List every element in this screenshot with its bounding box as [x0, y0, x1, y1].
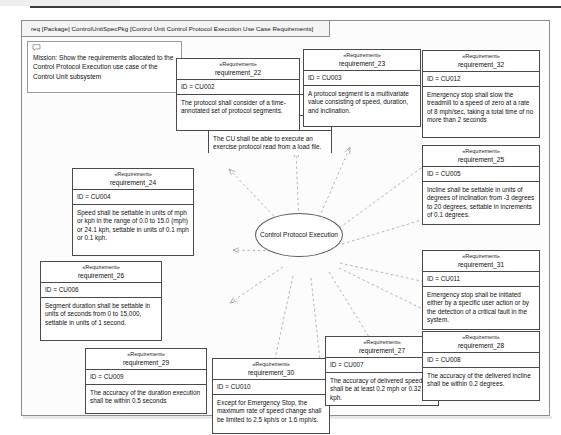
requirement-name: requirement_23 — [307, 60, 417, 68]
diagram-frame-header: req [Package] ControlUnitSpecPkg [Contro… — [22, 21, 330, 37]
requirement-name: requirement_22 — [180, 69, 296, 77]
use-case-label: Control Protocol Execution — [260, 231, 338, 240]
requirement-id: ID = CU012 — [423, 72, 539, 88]
requirement-box-requirement_31[interactable]: «Requirement» requirement_31 ID = CU011 … — [422, 250, 540, 330]
use-case-control-protocol-execution[interactable]: Control Protocol Execution — [255, 213, 343, 257]
diagram-frame: req [Package] ControlUnitSpecPkg [Contro… — [21, 20, 550, 416]
requirement-text: Except for Emergency Stop, the maximum r… — [213, 395, 329, 427]
mission-note-text: Mission: Show the requirements allocated… — [33, 54, 173, 80]
requirement-header: «Requirement» requirement_32 — [423, 51, 539, 72]
requirement-stereotype: «Requirement» — [216, 361, 326, 369]
requirement-id: ID = CU009 — [86, 370, 206, 386]
requirement-id: ID = CU005 — [423, 167, 539, 183]
requirement-header: «Requirement» requirement_26 — [41, 262, 161, 283]
requirement-stereotype: «Requirement» — [426, 53, 536, 61]
requirement-header: «Requirement» requirement_29 — [86, 349, 206, 370]
requirement-text: The protocol shall consider of a time-an… — [177, 95, 299, 119]
requirement-header: «Requirement» requirement_23 — [304, 50, 420, 71]
requirement-id: ID = CU004 — [73, 190, 193, 206]
requirement-id: ID = CU002 — [177, 80, 299, 96]
requirement-id: ID = CU006 — [41, 283, 161, 299]
requirement-name: requirement_32 — [426, 61, 536, 69]
requirement-id: ID = CU011 — [423, 272, 539, 288]
requirement-name: requirement_28 — [426, 342, 536, 350]
requirement-stereotype: «Requirement» — [426, 334, 536, 342]
requirement-name: requirement_30 — [216, 369, 326, 377]
requirement-box-requirement_32[interactable]: «Requirement» requirement_32 ID = CU012 … — [422, 50, 540, 138]
requirement-text: The CU shall be able to execute an exerc… — [209, 131, 331, 155]
requirement-name: requirement_26 — [44, 272, 158, 280]
requirement-header: «Requirement» requirement_25 — [423, 146, 539, 167]
requirement-header: «Requirement» requirement_31 — [423, 251, 539, 272]
requirement-stereotype: «Requirement» — [89, 351, 203, 359]
requirement-stereotype: «Requirement» — [76, 171, 190, 179]
requirement-box-requirement_23[interactable]: «Requirement» requirement_23 ID = CU003 … — [303, 49, 421, 127]
requirement-text: Emergency stop shall be initiated either… — [423, 287, 539, 328]
requirement-stereotype: «Requirement» — [426, 253, 536, 261]
requirement-box-requirement_24[interactable]: «Requirement» requirement_24 ID = CU004 … — [72, 168, 194, 256]
requirement-header: «Requirement» requirement_22 — [177, 59, 299, 80]
requirement-name: requirement_25 — [426, 156, 536, 164]
requirement-id: ID = CU008 — [423, 353, 539, 369]
requirement-box-requirement_25[interactable]: «Requirement» requirement_25 ID = CU005 … — [422, 145, 540, 225]
requirement-stereotype: «Requirement» — [329, 339, 435, 347]
requirement-box-requirement_28[interactable]: «Requirement» requirement_28 ID = CU008 … — [422, 331, 540, 401]
requirement-id: ID = CU010 — [213, 380, 329, 396]
requirement-box-requirement_29[interactable]: «Requirement» requirement_29 ID = CU009 … — [85, 348, 207, 414]
requirement-stereotype: «Requirement» — [426, 148, 536, 156]
requirement-text: The accuracy of the delivered incline sh… — [423, 368, 539, 392]
requirement-text: Emergency stop shall slow the treadmill … — [423, 87, 539, 128]
requirement-name: requirement_24 — [76, 179, 190, 187]
requirement-text: Incline shall be settable in units of de… — [423, 182, 539, 223]
requirement-header: «Requirement» requirement_24 — [73, 169, 193, 190]
requirement-header: «Requirement» requirement_30 — [213, 359, 329, 380]
mission-note: Mission: Show the requirements allocated… — [27, 41, 182, 93]
requirement-id: ID = CU003 — [304, 71, 420, 87]
requirement-name: requirement_27 — [329, 347, 435, 355]
top-divider-rule — [30, 6, 561, 8]
requirement-box-requirement_22[interactable]: «Requirement» requirement_22 ID = CU002 … — [176, 58, 300, 131]
requirement-stereotype: «Requirement» — [44, 264, 158, 272]
requirement-text: Segment duration shall be settable in un… — [41, 298, 161, 330]
requirement-stereotype: «Requirement» — [307, 52, 417, 60]
requirement-name: requirement_29 — [89, 359, 203, 367]
requirement-text: The accuracy of the duration execution s… — [86, 385, 206, 409]
comment-icon — [32, 44, 41, 51]
requirement-name: requirement_31 — [426, 261, 536, 269]
requirement-text: A protocol segment is a multivariate val… — [304, 86, 420, 118]
requirement-box-requirement_26[interactable]: «Requirement» requirement_26 ID = CU006 … — [40, 261, 162, 341]
requirement-stereotype: «Requirement» — [180, 61, 296, 69]
requirement-box-requirement_30[interactable]: «Requirement» requirement_30 ID = CU010 … — [212, 358, 330, 434]
requirement-text: Speed shall be settable in units of mph … — [73, 205, 193, 246]
requirement-header: «Requirement» requirement_28 — [423, 332, 539, 353]
